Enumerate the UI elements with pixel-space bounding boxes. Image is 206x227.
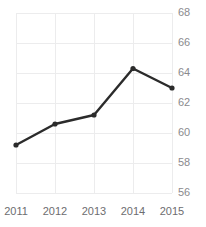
x-tick-label-2013: 2013 bbox=[74, 205, 114, 217]
y-tick-label-60: 60 bbox=[178, 127, 206, 138]
x-tick-label-2015: 2015 bbox=[152, 205, 192, 217]
y-tick-label-62: 62 bbox=[178, 97, 206, 108]
y-tick-label-68: 68 bbox=[178, 7, 206, 18]
x-tick-label-2011: 2011 bbox=[0, 205, 36, 217]
y-tick-label-64: 64 bbox=[178, 67, 206, 78]
chart-title bbox=[0, 0, 170, 5]
y-tick-label-66: 66 bbox=[178, 37, 206, 48]
series-line-series-1 bbox=[16, 69, 172, 146]
data-series bbox=[16, 13, 172, 193]
plot-area bbox=[16, 13, 172, 193]
data-point-2013 bbox=[91, 112, 96, 117]
x-tick-label-2012: 2012 bbox=[35, 205, 75, 217]
y-tick-label-58: 58 bbox=[178, 157, 206, 168]
x-axis: 20112012201320142015 bbox=[0, 205, 206, 223]
data-point-2012 bbox=[52, 121, 57, 126]
data-point-2011 bbox=[13, 142, 18, 147]
x-tick-label-2014: 2014 bbox=[113, 205, 153, 217]
line-chart: 56586062646668 20112012201320142015 bbox=[0, 0, 206, 227]
data-point-2015 bbox=[169, 85, 174, 90]
y-axis: 56586062646668 bbox=[178, 0, 206, 227]
y-tick-label-56: 56 bbox=[178, 187, 206, 198]
data-point-2014 bbox=[130, 66, 135, 71]
